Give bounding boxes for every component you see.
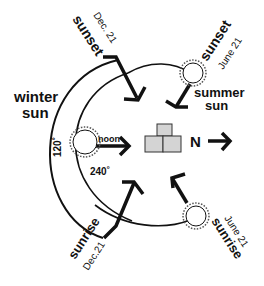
- house-icon: [145, 124, 181, 152]
- angle-120-label: 120˚: [52, 137, 63, 157]
- sun-path-diagram: winter sun sunset Dec. 21 sunset June 21…: [0, 0, 264, 286]
- dec-sunrise-arrow: [104, 182, 143, 238]
- june-sunrise-sun-icon: [183, 203, 209, 229]
- noon-label: noon: [98, 134, 120, 144]
- june-sunrise-arrow: [172, 174, 187, 203]
- june-sunset-sun-icon: [180, 60, 206, 86]
- winter-sun-label-2: sun: [22, 104, 49, 121]
- north-arrow: [208, 133, 230, 150]
- north-label: N: [190, 133, 201, 150]
- summer-sun-label-2: sun: [205, 98, 228, 113]
- winter-noon-sun-icon: [70, 127, 100, 157]
- angle-240-label: 240˚: [90, 166, 110, 177]
- winter-sun-label-1: winter: [13, 88, 58, 105]
- june-sunset-arrow: [166, 84, 190, 107]
